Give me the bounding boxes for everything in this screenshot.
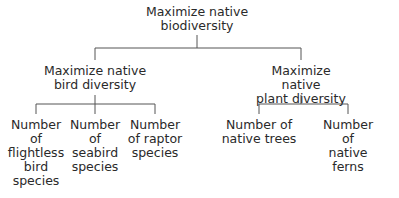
seabird-node: Number of seabird species — [70, 118, 120, 174]
native-trees-node: Number of native trees — [222, 118, 297, 146]
raptor-node: Number of raptor species — [128, 118, 182, 160]
flightless-bird-node: Number of flightless bird species — [8, 118, 64, 188]
plant-diversity-node: Maximize native plant diversity — [252, 64, 350, 106]
bird-diversity-node: Maximize native bird diversity — [44, 64, 146, 92]
native-ferns-node: Number of native ferns — [323, 118, 374, 174]
root-node: Maximize native biodiversity — [146, 5, 248, 33]
